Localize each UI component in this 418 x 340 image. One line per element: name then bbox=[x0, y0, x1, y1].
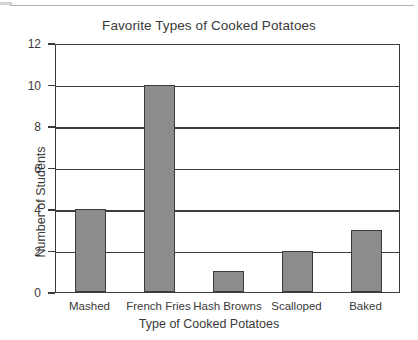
y-tick-mark bbox=[48, 251, 55, 253]
plot-area bbox=[55, 44, 400, 293]
y-tick-label: 12 bbox=[15, 38, 41, 50]
y-tick-mark bbox=[48, 168, 55, 170]
y-tick-label: 0 bbox=[15, 287, 41, 299]
chart-page: Favorite Types of Cooked Potatoes 024681… bbox=[0, 0, 418, 340]
bar bbox=[144, 85, 175, 293]
bar bbox=[351, 230, 382, 292]
bar bbox=[75, 209, 106, 292]
x-axis-title: Type of Cooked Potatoes bbox=[0, 317, 418, 331]
bar-series bbox=[56, 45, 399, 292]
y-tick-mark bbox=[48, 126, 55, 128]
chart-title: Favorite Types of Cooked Potatoes bbox=[0, 18, 418, 33]
y-tick-mark bbox=[48, 85, 55, 87]
y-tick-mark bbox=[48, 43, 55, 45]
x-tick-label: Baked bbox=[311, 299, 418, 313]
bar bbox=[213, 271, 244, 292]
bar bbox=[282, 251, 313, 293]
y-tick-mark bbox=[48, 209, 55, 211]
y-axis-title: Number of Students bbox=[34, 132, 48, 272]
y-tick-mark bbox=[48, 292, 55, 294]
x-axis-tick-labels: MashedFrench FriesHash BrownsScallopedBa… bbox=[0, 299, 418, 315]
y-tick-label: 10 bbox=[15, 80, 41, 92]
scan-artifact-rule bbox=[10, 5, 414, 6]
